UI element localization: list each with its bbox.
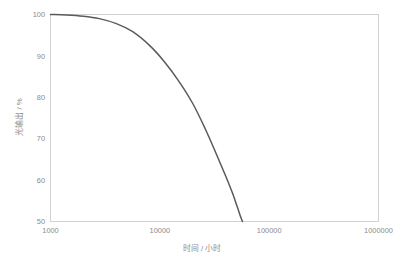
chart-background (0, 0, 405, 266)
y-tick-label: 90 (37, 52, 45, 61)
y-tick-label: 50 (37, 217, 45, 226)
y-axis-title: 光输出 / % (14, 98, 24, 135)
chart-container: 1000100001000001000000 5060708090100 时间 … (0, 0, 405, 266)
y-tick-label: 60 (37, 176, 45, 185)
x-tick-label: 100000 (257, 226, 282, 235)
x-tick-label: 1000000 (364, 226, 393, 235)
y-tick-label: 70 (37, 134, 45, 143)
lumen-maintenance-chart: 1000100001000001000000 5060708090100 时间 … (0, 0, 405, 266)
x-tick-label: 1000 (42, 226, 58, 235)
y-tick-label: 80 (37, 93, 45, 102)
y-tick-label: 100 (33, 10, 45, 19)
x-axis-title: 时间 / 小时 (183, 243, 222, 253)
x-tick-label: 10000 (150, 226, 171, 235)
